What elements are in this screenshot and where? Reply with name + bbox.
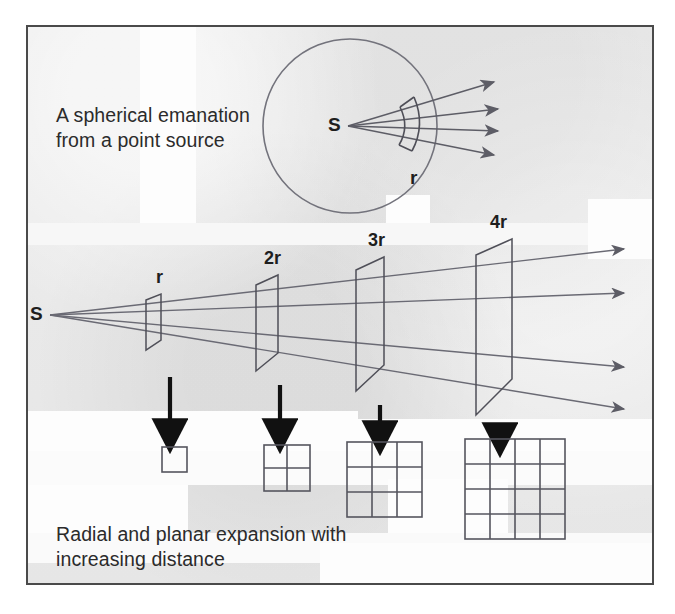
sphere-radius-label: r <box>410 167 417 189</box>
distance-label-r: r <box>156 267 163 288</box>
distance-label-4r: 4r <box>490 212 507 233</box>
grid-2 <box>264 445 310 491</box>
distance-label-2r: 2r <box>264 248 281 269</box>
cone-ray-lower <box>50 315 624 367</box>
projection-arrows <box>170 377 500 439</box>
cone-ray-upper <box>50 293 624 315</box>
sphere-ray-2 <box>348 109 498 126</box>
bottom-caption: Radial and planar expansion with increas… <box>56 522 386 572</box>
grid-3 <box>347 442 422 517</box>
sphere-rays <box>348 82 498 155</box>
cone-source-label: S <box>30 303 43 325</box>
spherical-patch <box>399 97 420 151</box>
distance-label-3r: 3r <box>368 230 385 251</box>
cone-ray-top <box>50 249 624 315</box>
sphere-source-label: S <box>328 114 341 136</box>
cone-ray-bottom <box>50 315 624 409</box>
grid-1 <box>162 447 187 472</box>
sphere-ray-1 <box>348 82 494 126</box>
figure-canvas: A spherical emanation from a point sourc… <box>0 0 675 614</box>
top-caption: A spherical emanation from a point sourc… <box>56 103 306 153</box>
cone-rays <box>50 249 624 409</box>
grid-4 <box>465 439 565 539</box>
figure-frame: A spherical emanation from a point sourc… <box>26 25 654 585</box>
